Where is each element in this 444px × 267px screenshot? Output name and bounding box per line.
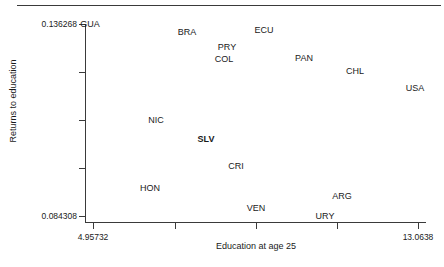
top-divider-rule (17, 5, 441, 6)
x-axis-tick-label: 4.95732 (58, 232, 128, 242)
data-point-label: URY (316, 211, 335, 221)
x-axis-tick-label: 13.0638 (383, 232, 444, 242)
x-axis-tick (418, 223, 419, 229)
data-point-label: CHL (346, 66, 364, 76)
data-point-label: ARG (332, 191, 352, 201)
data-point-label: BRA (178, 27, 197, 37)
data-point-label: HON (140, 183, 160, 193)
x-axis-tick (337, 223, 338, 229)
data-point-label: COL (215, 54, 234, 64)
data-point-label: CRI (228, 161, 244, 171)
data-point-label: ECU (254, 25, 273, 35)
x-axis-tick (175, 223, 176, 229)
y-axis-title: Returns to education (8, 36, 18, 166)
data-point-label: GUA (80, 19, 100, 29)
x-axis-tick (256, 223, 257, 229)
y-axis-line (85, 24, 86, 222)
y-axis-tick (79, 168, 85, 169)
data-point-label: PAN (295, 53, 313, 63)
y-axis-tick (79, 120, 85, 121)
y-axis-tick-label: 0.084308 (3, 211, 77, 221)
y-axis-tick (79, 216, 85, 217)
data-point-label: NIC (148, 115, 164, 125)
data-point-label: USA (406, 83, 425, 93)
data-point-label: SLV (198, 134, 215, 144)
x-axis-title: Education at age 25 (175, 241, 337, 252)
y-axis-tick-label: 0.136268 (3, 19, 77, 29)
scatter-plot-figure: 0.1362680.084308 4.9573213.0638 Returns … (0, 0, 444, 267)
x-axis-tick (93, 223, 94, 229)
data-point-label: VEN (247, 203, 266, 213)
y-axis-tick (79, 72, 85, 73)
data-point-label: PRY (218, 42, 236, 52)
